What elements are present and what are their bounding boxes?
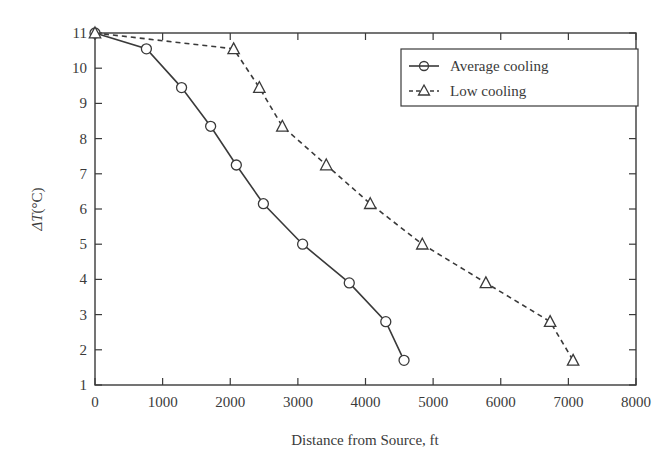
x-tick-label: 8000 (621, 394, 651, 410)
triangle-marker-icon (480, 277, 491, 288)
circle-marker-icon (206, 121, 216, 131)
triangle-marker-icon (567, 354, 578, 365)
circle-marker-icon (231, 160, 241, 170)
y-axis-title-delta: Δ (29, 222, 45, 232)
circle-marker-icon (258, 199, 268, 209)
y-tick-label: 5 (80, 236, 88, 252)
triangle-marker-icon (417, 238, 428, 249)
y-tick-label: 10 (72, 60, 87, 76)
legend-label-low-cooling: Low cooling (450, 83, 527, 99)
triangle-marker-icon (277, 120, 288, 131)
circle-marker-icon (177, 83, 187, 93)
x-tick-label: 5000 (418, 394, 448, 410)
circle-marker-icon (298, 239, 308, 249)
y-tick-label: 7 (80, 166, 88, 182)
y-tick-label: 1 (80, 377, 88, 393)
x-tick-label: 7000 (553, 394, 583, 410)
circle-marker-icon (399, 355, 409, 365)
y-tick-label: 9 (80, 95, 88, 111)
x-tick-label: 1000 (148, 394, 178, 410)
y-tick-label: 11 (73, 25, 87, 41)
circle-marker-icon (381, 317, 391, 327)
y-tick-label: 4 (80, 271, 88, 287)
legend-label-average-cooling: Average cooling (450, 58, 549, 74)
x-tick-label: 3000 (283, 394, 313, 410)
y-tick-label: 6 (80, 201, 88, 217)
x-tick-label: 4000 (351, 394, 381, 410)
y-axis-title-unit: (°C) (29, 187, 46, 213)
y-axis-title: ΔT(°C) (29, 187, 46, 231)
legend: Average cooling Low cooling (401, 49, 638, 106)
y-tick-label: 8 (80, 131, 88, 147)
line-chart: 010002000300040005000600070008000 123456… (0, 0, 666, 461)
y-tick-label: 2 (80, 342, 88, 358)
series-line (95, 33, 404, 360)
y-tick-label: 3 (80, 307, 88, 323)
x-axis-title: Distance from Source, ft (291, 432, 439, 448)
x-tick-label: 0 (91, 394, 99, 410)
circle-marker-icon (344, 278, 354, 288)
x-tick-label: 6000 (486, 394, 516, 410)
x-tick-label: 2000 (215, 394, 245, 410)
circle-marker-icon (141, 44, 151, 54)
triangle-marker-icon (544, 316, 555, 327)
triangle-marker-icon (254, 82, 265, 93)
